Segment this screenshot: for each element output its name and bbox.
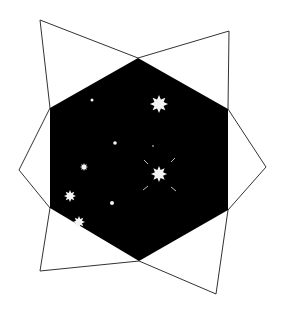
- star-small-left-icon: [80, 163, 88, 171]
- star-left-icon: [64, 190, 76, 202]
- star-bottom-left-icon: [73, 216, 85, 228]
- dot-middle: [113, 141, 117, 145]
- dot-top-left: [91, 99, 94, 102]
- star-large-top-icon: [150, 95, 168, 113]
- black-hexagon: [50, 58, 228, 261]
- flap-right: [228, 109, 266, 210]
- dot-lower: [110, 201, 114, 205]
- flap-left: [19, 108, 50, 208]
- hexagon-star-figure: [0, 0, 288, 322]
- star-large-center-icon: [151, 166, 167, 182]
- dot-faint: [152, 145, 154, 147]
